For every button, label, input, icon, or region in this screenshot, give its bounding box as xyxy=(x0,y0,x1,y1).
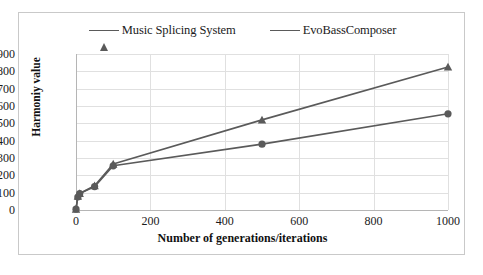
y-tick-label: 900 xyxy=(0,47,15,62)
y-tick-label: 300 xyxy=(0,151,15,166)
x-tick-label: 800 xyxy=(352,214,396,229)
x-tick-label: 400 xyxy=(203,214,247,229)
x-tick-label: 1000 xyxy=(426,214,470,229)
x-axis-line xyxy=(76,210,448,211)
chart-legend: Music Splicing System EvoBassComposer xyxy=(19,23,466,38)
data-point-circle[interactable] xyxy=(91,183,98,190)
data-point-circle[interactable] xyxy=(76,190,83,197)
data-point-circle[interactable] xyxy=(110,162,117,169)
legend-entry-evobasscomposer[interactable]: EvoBassComposer xyxy=(270,23,397,38)
data-point-circle[interactable] xyxy=(72,206,79,213)
series-line-1 xyxy=(76,114,448,209)
data-point-circle[interactable] xyxy=(444,110,451,117)
y-axis-title: Harmoniy value xyxy=(30,42,42,152)
legend-label-0: Music Splicing System xyxy=(122,23,236,38)
legend-label-1: EvoBassComposer xyxy=(303,23,397,38)
y-tick-label: 600 xyxy=(0,99,15,114)
vertical-gridline xyxy=(448,54,449,210)
triangle-marker-icon xyxy=(100,26,108,51)
legend-entry-music-splicing-system[interactable]: Music Splicing System xyxy=(89,23,236,38)
x-axis-title: Number of generations/iterations xyxy=(19,231,466,246)
data-point-triangle[interactable] xyxy=(444,63,452,71)
x-tick-label: 200 xyxy=(128,214,172,229)
y-tick-label: 700 xyxy=(0,81,15,96)
chart-figure: Music Splicing System EvoBassComposer Ha… xyxy=(18,12,465,255)
y-tick-label: 800 xyxy=(0,64,15,79)
y-tick-label: 200 xyxy=(0,168,15,183)
x-tick-label: 0 xyxy=(54,214,98,229)
y-tick-label: 100 xyxy=(0,185,15,200)
x-tick-label: 600 xyxy=(277,214,321,229)
y-tick-label: 0 xyxy=(0,203,15,218)
legend-key-triangle xyxy=(89,25,119,37)
plot-area: 0100200300400500600700800900 02004006008… xyxy=(76,54,448,210)
y-tick-label: 500 xyxy=(0,116,15,131)
data-point-circle[interactable] xyxy=(258,141,265,148)
series-line-0 xyxy=(76,67,448,209)
y-tick-label: 400 xyxy=(0,133,15,148)
series-plot xyxy=(76,54,448,210)
legend-key-circle xyxy=(270,25,300,37)
